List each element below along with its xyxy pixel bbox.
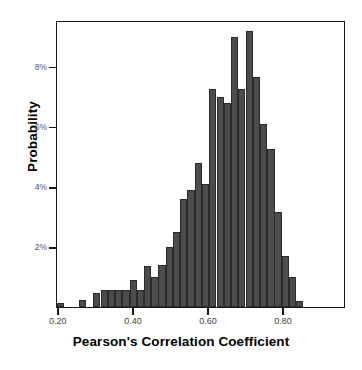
histogram-bar	[93, 293, 100, 307]
y-axis-tick-label: 6%	[7, 122, 47, 132]
x-axis-tick	[57, 307, 59, 315]
histogram-bar	[115, 290, 122, 307]
x-axis-tick-label: 0.60	[188, 316, 228, 326]
histogram-bar	[296, 301, 303, 307]
x-axis-tick	[207, 307, 209, 315]
histogram-bar	[187, 190, 194, 307]
y-axis-tick-label: 4%	[7, 182, 47, 192]
y-axis-tick-label: 2%	[7, 242, 47, 252]
plot-frame	[56, 21, 345, 308]
x-axis-tick	[282, 307, 284, 315]
x-axis-title: Pearson's Correlation Coefficient	[0, 334, 362, 349]
histogram-bar	[238, 89, 245, 307]
histogram-figure: Probability 2%4%6%8% 0.200.400.600.80 Pe…	[0, 0, 362, 370]
histogram-bar	[137, 290, 144, 307]
histogram-bar	[217, 97, 224, 307]
histogram-bar	[166, 247, 173, 307]
x-axis-tick-label: 0.20	[38, 316, 78, 326]
histogram-bar	[267, 149, 274, 307]
histogram-bar	[151, 277, 158, 307]
histogram-bar	[260, 124, 267, 307]
histogram-bar	[282, 256, 289, 307]
histogram-bar	[79, 300, 86, 308]
plot-area	[57, 22, 344, 307]
histogram-bar	[101, 290, 108, 307]
histogram-bar	[209, 89, 216, 307]
histogram-bar	[246, 31, 253, 307]
histogram-bar	[224, 103, 231, 307]
y-axis-tick-label: 8%	[7, 62, 47, 72]
x-axis-tick-label: 0.80	[263, 316, 303, 326]
x-axis-tick	[132, 307, 134, 315]
x-axis-tick-label: 0.40	[113, 316, 153, 326]
histogram-bar	[274, 212, 281, 307]
